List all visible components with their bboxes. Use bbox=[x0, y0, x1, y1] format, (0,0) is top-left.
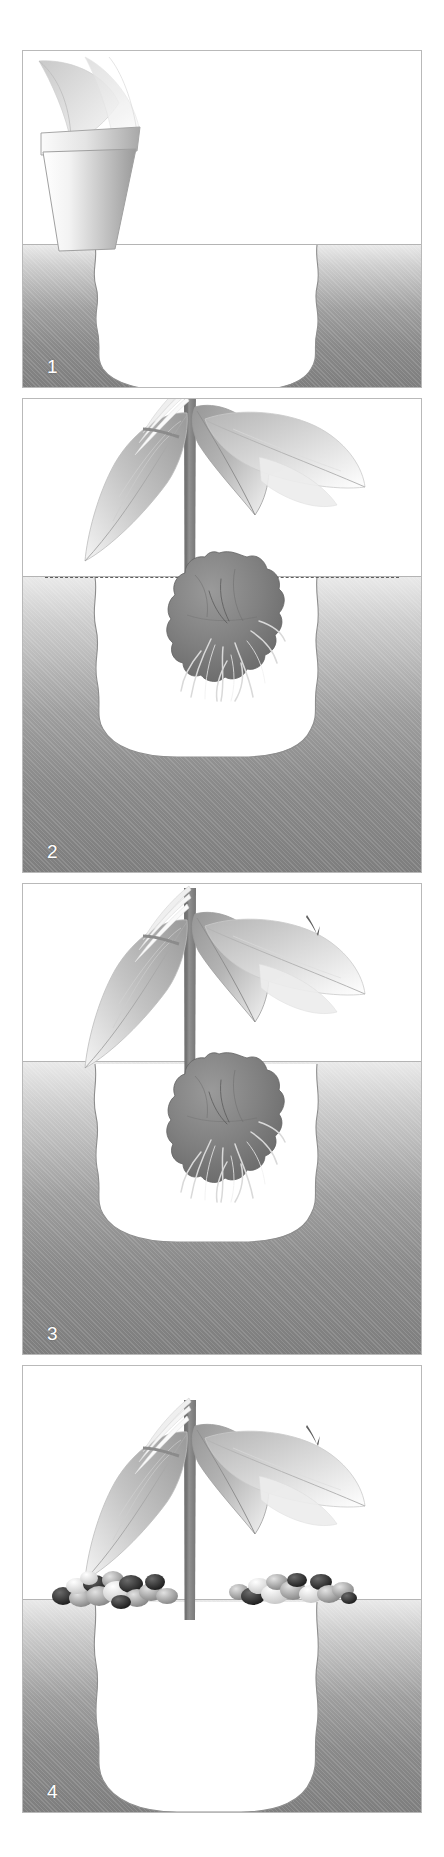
panel-2-canvas: 2 bbox=[23, 399, 421, 872]
gravel-mulch-right bbox=[229, 1568, 357, 1610]
gravel-mulch-left bbox=[51, 1566, 181, 1610]
planting-hole bbox=[91, 1602, 321, 1812]
panel-4-canvas: 4 bbox=[23, 1366, 421, 1812]
rootball bbox=[165, 1052, 287, 1202]
illustration-sheet: 1 bbox=[0, 0, 444, 1857]
panel-step-1: 1 bbox=[22, 50, 422, 388]
pruning-mark-icon bbox=[304, 1424, 324, 1448]
panel-1-canvas: 1 bbox=[23, 51, 421, 387]
flower-pot bbox=[45, 57, 155, 253]
panel-step-2: 2 bbox=[22, 398, 422, 873]
step-number-1: 1 bbox=[47, 357, 58, 376]
step-number-4: 4 bbox=[47, 1782, 58, 1801]
step-number-3: 3 bbox=[47, 1324, 58, 1343]
rootball bbox=[165, 551, 287, 701]
step-number-2: 2 bbox=[47, 842, 58, 861]
pruning-mark-icon bbox=[304, 914, 324, 938]
panel-step-3: 3 bbox=[22, 883, 422, 1355]
panel-step-4: 4 bbox=[22, 1365, 422, 1813]
planting-hole bbox=[91, 245, 321, 387]
panel-3-canvas: 3 bbox=[23, 884, 421, 1354]
